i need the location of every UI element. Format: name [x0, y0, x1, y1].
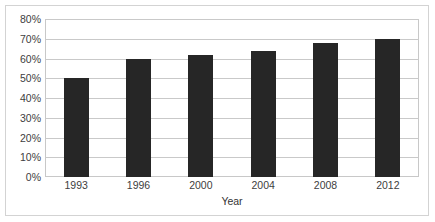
x-axis-tick-label: 2008: [294, 179, 356, 191]
x-axis-labels: 199319962000200420082012: [45, 179, 419, 191]
bar-slot: [232, 19, 294, 177]
x-axis-tick-label: 1993: [45, 179, 107, 191]
bar[interactable]: [188, 55, 213, 177]
y-axis-tick-label: 30%: [5, 112, 41, 124]
bar-slot: [170, 19, 232, 177]
y-axis-tick-label: 0%: [5, 171, 41, 183]
bar[interactable]: [313, 43, 338, 177]
bar-slot: [45, 19, 107, 177]
bar-series: [45, 19, 419, 177]
bar-slot: [107, 19, 169, 177]
x-axis-tick-label: 2012: [357, 179, 419, 191]
bar[interactable]: [64, 78, 89, 177]
x-axis-tick-label: 1996: [107, 179, 169, 191]
y-axis-tick-label: 60%: [5, 53, 41, 65]
x-axis-tick-label: 2004: [232, 179, 294, 191]
x-axis-tick-label: 2000: [170, 179, 232, 191]
y-axis-tick-label: 40%: [5, 92, 41, 104]
y-axis-tick-label: 20%: [5, 132, 41, 144]
bar-slot: [294, 19, 356, 177]
bar-slot: [357, 19, 419, 177]
bar[interactable]: [126, 59, 151, 178]
y-axis-tick-label: 80%: [5, 13, 41, 25]
bar[interactable]: [375, 39, 400, 177]
plot-wrapper: 80%70%60%50%40%30%20%10%0%: [45, 19, 419, 177]
y-axis-tick-label: 70%: [5, 33, 41, 45]
y-axis-tick-label: 10%: [5, 151, 41, 163]
bar[interactable]: [251, 51, 276, 177]
chart-title-cutoff: [0, 0, 435, 4]
y-axis-tick-label: 50%: [5, 72, 41, 84]
chart-frame: 80%70%60%50%40%30%20%10%0% 1993199620002…: [5, 5, 429, 216]
x-axis-title: Year: [45, 195, 419, 207]
